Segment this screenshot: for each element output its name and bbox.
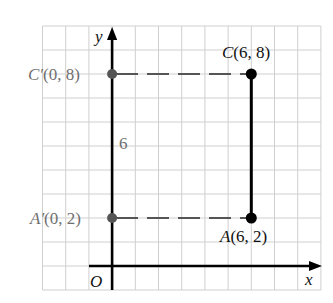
length-label: 6	[119, 134, 128, 153]
point-c-prime	[107, 69, 117, 79]
point-c	[246, 69, 257, 80]
x-axis	[89, 261, 322, 271]
label-c: C(6, 8)	[222, 43, 270, 62]
coordinate-plane: y x O C′(0, 8) A′(0, 2) C(6, 8) A(6, 2) …	[0, 0, 333, 303]
point-a-prime	[107, 213, 117, 223]
y-axis-arrow-icon	[107, 27, 117, 40]
y-axis	[107, 27, 117, 290]
label-c-prime: C′(0, 8)	[28, 65, 80, 84]
grid	[43, 26, 321, 290]
x-axis-label: x	[304, 270, 313, 289]
label-a: A(6, 2)	[219, 227, 267, 246]
point-a	[246, 213, 257, 224]
label-a-prime: A′(0, 2)	[29, 209, 81, 228]
origin-label: O	[90, 272, 102, 291]
y-axis-label: y	[93, 27, 103, 46]
